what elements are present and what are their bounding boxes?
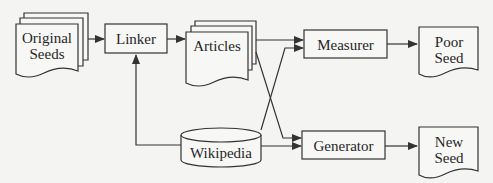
poor-seed-label-line1: Poor — [419, 34, 479, 50]
generator-label: Generator — [302, 138, 385, 154]
measurer-label: Measurer — [304, 37, 387, 53]
original-seeds-label-line1: Original — [18, 30, 76, 46]
original-seeds-label: Original Seeds — [18, 30, 76, 62]
edge-wikipedia-to-linker — [136, 55, 181, 145]
wikipedia-label: Wikipedia — [181, 145, 261, 161]
new-seed-label-line1: New — [419, 134, 479, 150]
articles-label: Articles — [186, 38, 248, 54]
new-seed-label-line2: Seed — [419, 150, 479, 166]
poor-seed-label: Poor Seed — [419, 34, 479, 66]
original-seeds-label-line2: Seeds — [18, 46, 76, 62]
poor-seed-label-line2: Seed — [419, 50, 479, 66]
linker-label: Linker — [105, 31, 167, 47]
new-seed-label: New Seed — [419, 134, 479, 166]
